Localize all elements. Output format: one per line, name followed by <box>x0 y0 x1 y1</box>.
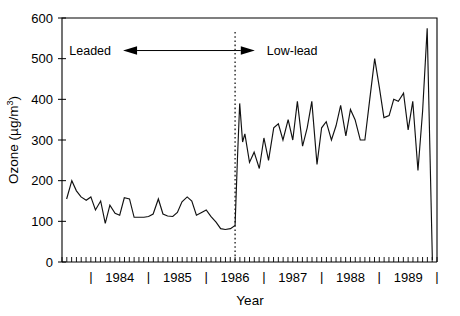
x-axis-year-label: 1984 <box>105 270 134 285</box>
ozone-time-series-chart: 0100200300400500600 19841985198619871988… <box>0 0 460 316</box>
x-axis-year-separator: | <box>147 269 150 284</box>
y-axis-tick-label: 500 <box>31 51 53 66</box>
x-axis-year-label: 1985 <box>163 270 192 285</box>
x-axis-year-separators: ||||||| <box>89 269 439 284</box>
annotation-low-lead: Low-lead <box>235 44 318 58</box>
x-axis-year-separator: | <box>435 269 438 284</box>
x-axis-title: Year <box>236 293 264 308</box>
x-axis-year-label: 1986 <box>221 270 250 285</box>
y-axis-title-text: Ozone (µg/m <box>6 106 21 184</box>
y-axis: 0100200300400500600 <box>31 11 66 270</box>
y-axis-tick-label: 200 <box>31 173 53 188</box>
y-axis-tick-label: 300 <box>31 133 53 148</box>
annotation-low-lead-label: Low-lead <box>267 44 318 58</box>
x-axis-year-separator: | <box>378 269 381 284</box>
x-axis-year-label: 1988 <box>336 270 365 285</box>
plot-frame <box>62 18 437 262</box>
annotation-leaded-label: Leaded <box>69 44 111 58</box>
x-axis-year-separator: | <box>320 269 323 284</box>
x-axis-year-separator: | <box>89 269 92 284</box>
y-axis-title-close: ) <box>6 96 21 101</box>
x-axis-year-separator: | <box>262 269 265 284</box>
y-axis-tick-label: 0 <box>46 255 53 270</box>
x-axis <box>62 257 437 262</box>
y-axis-tick-label: 100 <box>31 214 53 229</box>
y-axis-title: Ozone (µg/m3) <box>5 96 21 184</box>
y-axis-tick-label: 600 <box>31 11 53 26</box>
x-axis-year-separator: | <box>205 269 208 284</box>
svg-text:Ozone (µg/m3): Ozone (µg/m3) <box>5 96 21 184</box>
data-series-ozone <box>67 28 433 260</box>
y-axis-tick-label: 400 <box>31 92 53 107</box>
chart-svg: 0100200300400500600 19841985198619871988… <box>0 0 460 316</box>
x-axis-year-label: 1989 <box>394 270 423 285</box>
annotation-leaded: Leaded <box>69 44 235 58</box>
x-axis-year-label: 1987 <box>278 270 307 285</box>
